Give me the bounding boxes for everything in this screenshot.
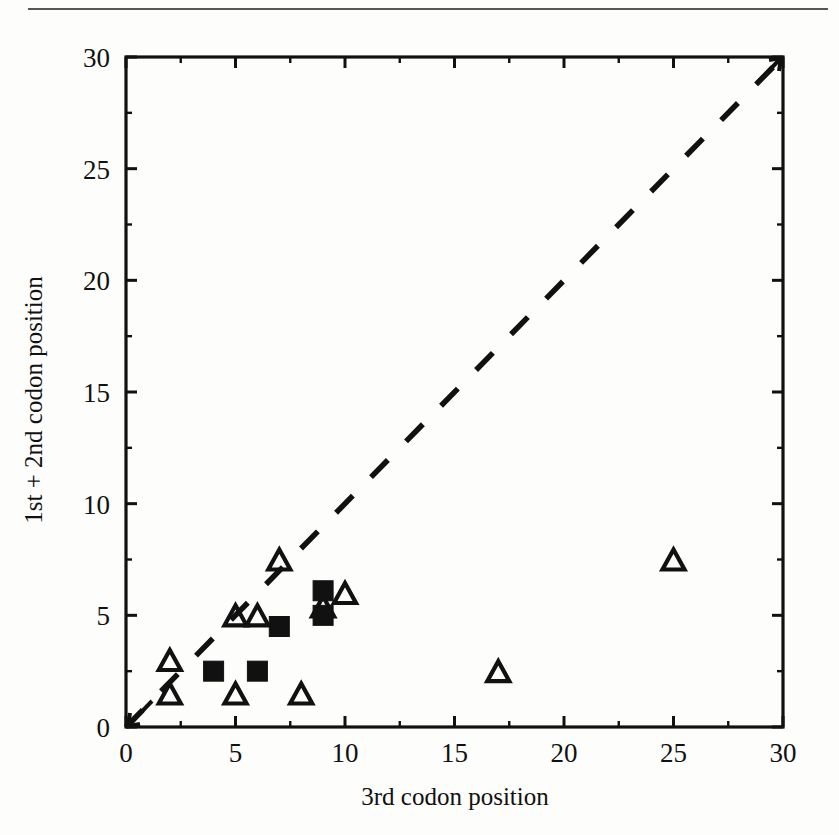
y-tick-label: 10 [83, 490, 110, 520]
data-point-square [313, 605, 333, 625]
y-tick-label: 0 [97, 713, 111, 743]
x-axis-tick-labels: 051015202530 [119, 738, 796, 768]
data-point-triangle [487, 661, 509, 681]
figure-page: 051015202530 051015202530 3rd codon posi… [0, 0, 839, 835]
y-tick-label: 25 [83, 155, 110, 185]
data-point-triangle [159, 650, 181, 670]
data-point-square [269, 617, 289, 637]
y-tick-label: 15 [83, 378, 110, 408]
x-tick-label: 5 [229, 738, 243, 768]
data-point-triangle [225, 684, 247, 704]
data-point-triangle [334, 583, 356, 603]
data-point-square [247, 661, 267, 681]
scatter-plot: 051015202530 051015202530 3rd codon posi… [0, 0, 839, 835]
y-axis-tick-labels: 051015202530 [83, 43, 110, 743]
x-tick-label: 25 [660, 738, 687, 768]
data-point-triangle [268, 550, 290, 570]
x-tick-label: 15 [441, 738, 468, 768]
x-tick-label: 20 [551, 738, 578, 768]
x-tick-label: 10 [332, 738, 359, 768]
data-point-triangle [246, 605, 268, 625]
y-axis-title: 1st + 2nd codon position [20, 276, 47, 524]
x-axis-title: 3rd codon position [361, 783, 549, 810]
data-point-triangle [663, 550, 685, 570]
data-point-triangle [290, 684, 312, 704]
data-point-square [204, 661, 224, 681]
data-point-square [313, 581, 333, 601]
y-tick-label: 20 [83, 266, 110, 296]
x-tick-label: 30 [770, 738, 797, 768]
series-filled-square-markers [204, 581, 334, 681]
x-tick-label: 0 [119, 738, 133, 768]
series-open-triangle-markers [159, 550, 685, 704]
y-tick-label: 30 [83, 43, 110, 73]
y-tick-label: 5 [97, 601, 111, 631]
